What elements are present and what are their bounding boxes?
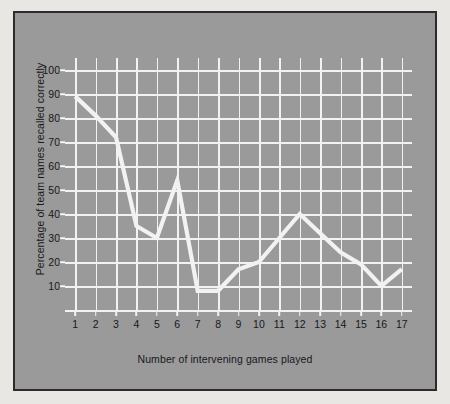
- y-tick-label: 30: [20, 232, 60, 244]
- x-axis-title: Number of intervening games played: [15, 353, 435, 365]
- x-tick-label: 3: [113, 318, 119, 330]
- x-tick-mark: [401, 310, 403, 316]
- x-tick-mark: [217, 310, 219, 316]
- x-tick-label: 13: [314, 318, 326, 330]
- y-tick-label: 80: [20, 112, 60, 124]
- data-series-line: [65, 58, 412, 310]
- x-tick-label: 7: [195, 318, 201, 330]
- y-tick-label: 20: [20, 256, 60, 268]
- x-tick-label: 16: [376, 318, 388, 330]
- x-tick-mark: [319, 310, 321, 316]
- x-tick-mark: [95, 310, 97, 316]
- chart-plot-wrapper: Percentage of team names recalled correc…: [15, 13, 435, 389]
- x-tick-mark: [238, 310, 240, 316]
- x-tick-mark: [258, 310, 260, 316]
- x-tick-label: 12: [294, 318, 306, 330]
- x-tick-label: 8: [215, 318, 221, 330]
- x-tick-mark: [74, 310, 76, 316]
- x-tick-mark: [340, 310, 342, 316]
- x-tick-label: 1: [72, 318, 78, 330]
- y-tick-label: 90: [20, 88, 60, 100]
- series-polyline: [75, 96, 402, 290]
- y-tick-label: 10: [20, 280, 60, 292]
- x-tick-mark: [279, 310, 281, 316]
- x-tick-label: 4: [134, 318, 140, 330]
- x-tick-label: 15: [355, 318, 367, 330]
- y-tick-label: 100: [20, 64, 60, 76]
- x-tick-label: 14: [335, 318, 347, 330]
- x-tick-label: 10: [253, 318, 265, 330]
- x-tick-label: 11: [274, 318, 285, 330]
- x-tick-label: 6: [174, 318, 180, 330]
- y-tick-label: 50: [20, 184, 60, 196]
- y-tick-label: 60: [20, 160, 60, 172]
- x-tick-mark: [197, 310, 199, 316]
- x-tick-label: 9: [236, 318, 242, 330]
- y-tick-label: 40: [20, 208, 60, 220]
- x-tick-mark: [299, 310, 301, 316]
- x-tick-label: 5: [154, 318, 160, 330]
- x-tick-mark: [115, 310, 117, 316]
- x-tick-mark: [360, 310, 362, 316]
- x-tick-label: 17: [396, 318, 408, 330]
- x-tick-mark: [381, 310, 383, 316]
- chart-figure: Percentage of team names recalled correc…: [13, 11, 437, 391]
- x-tick-mark: [156, 310, 158, 316]
- y-tick-label: 70: [20, 136, 60, 148]
- x-tick-mark: [136, 310, 138, 316]
- x-tick-mark: [176, 310, 178, 316]
- x-tick-label: 2: [93, 318, 99, 330]
- plot-area: 102030405060708090100 123456789101112131…: [65, 58, 412, 310]
